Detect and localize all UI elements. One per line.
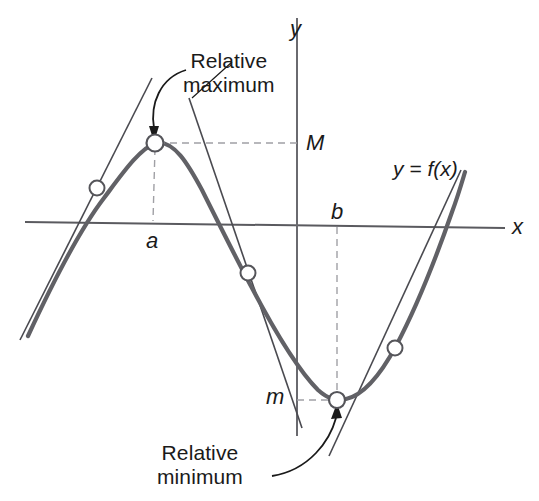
point-marker-relative-minimum xyxy=(329,392,345,408)
callout-arrow-maximum xyxy=(153,70,186,128)
relative-maximum-label: Relative maximum xyxy=(183,49,275,96)
point-marker-right-inflection xyxy=(388,341,403,356)
x-axis-line xyxy=(25,222,505,228)
point-a-label: a xyxy=(146,229,158,254)
point-marker-middle-inflection xyxy=(241,266,256,281)
function-equation-label: y = f(x) xyxy=(393,157,458,181)
relative-extrema-figure: Relative maximum Relative minimum M m a … xyxy=(0,0,539,501)
point-marker-left-inflection xyxy=(90,181,105,196)
tangent-line-left xyxy=(20,78,152,340)
x-axis-label: x xyxy=(512,215,523,240)
y-axis-label: y xyxy=(290,17,301,42)
tangent-line-right xyxy=(329,170,461,456)
value-m-label: m xyxy=(266,385,284,410)
relative-minimum-label: Relative minimum xyxy=(157,441,243,488)
point-marker-relative-maximum xyxy=(147,135,164,152)
point-b-label: b xyxy=(331,200,343,225)
callout-arrow-minimum xyxy=(272,418,336,476)
dashed-guide-a-vertical xyxy=(153,148,155,221)
tangent-line-middle xyxy=(189,98,302,428)
value-M-label: M xyxy=(306,131,324,156)
